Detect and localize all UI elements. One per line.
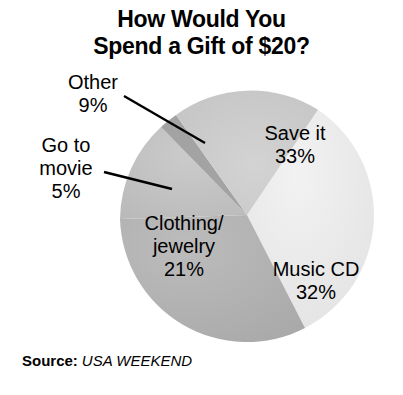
slice-label-other-pct: 9% [48,94,138,117]
slice-label-go-to-movie-pct: 5% [12,180,120,203]
slice-label-clothing-jewelry-pct: 21% [128,258,240,281]
slice-label-go-to-movie-name-1: Go to [12,134,120,157]
slice-label-go-to-movie: Go to movie 5% [12,134,120,202]
pie-chart-figure: How Would You Spend a Gift of $20? [0,0,403,395]
slice-label-save-it: Save it 33% [243,122,347,168]
slice-label-clothing-jewelry: Clothing/ jewelry 21% [128,212,240,280]
slice-label-other: Other 9% [48,71,138,117]
slice-label-music-cd-name: Music CD [258,258,374,281]
slice-label-go-to-movie-name-2: movie [12,157,120,180]
slice-label-save-it-name: Save it [243,122,347,145]
slice-label-save-it-pct: 33% [243,145,347,168]
slice-label-music-cd-pct: 32% [258,281,374,304]
slice-label-clothing-jewelry-name-2: jewelry [128,235,240,258]
source-name: USA WEEKEND [82,352,192,369]
slice-label-other-name: Other [48,71,138,94]
slice-label-clothing-jewelry-name-1: Clothing/ [128,212,240,235]
source-credit: Source:USA WEEKEND [22,352,192,369]
source-label: Source: [22,352,78,369]
slice-label-music-cd: Music CD 32% [258,258,374,304]
